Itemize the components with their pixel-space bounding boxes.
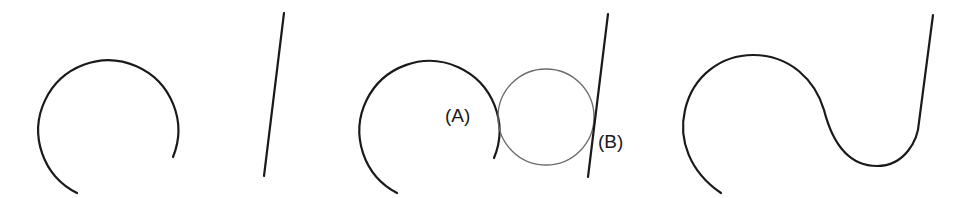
arc-shape [359, 61, 499, 193]
fillet-circle [498, 69, 594, 165]
panel-1 [38, 13, 284, 193]
panel-3 [683, 15, 933, 193]
tangent-label-a: (A) [445, 106, 470, 125]
blended-curve [683, 15, 933, 193]
tangent-label-b: (B) [598, 132, 623, 151]
panel-2 [359, 14, 608, 193]
line-shape [588, 14, 608, 177]
fillet-diagram [0, 0, 970, 198]
arc-shape [38, 60, 178, 193]
line-shape [264, 13, 284, 176]
